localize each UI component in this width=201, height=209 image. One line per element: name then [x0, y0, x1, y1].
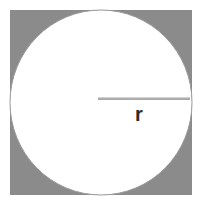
- radius-label: r: [135, 104, 143, 124]
- circle-radius-diagram: [0, 0, 201, 209]
- inscribed-circle: [10, 10, 192, 195]
- figure-canvas: r: [0, 0, 201, 209]
